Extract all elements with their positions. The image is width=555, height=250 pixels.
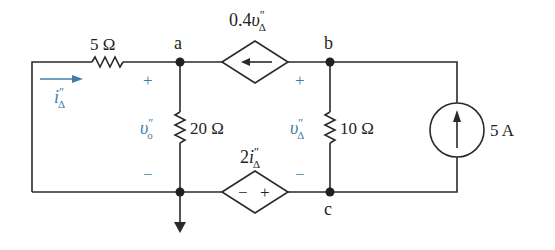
resistor-10-ohm xyxy=(325,112,335,143)
dep-voltage-label: 2i″Δ xyxy=(240,145,260,170)
svg-text:2i″Δ: 2i″Δ xyxy=(240,145,260,170)
i-delta-label: i″Δ xyxy=(54,85,65,110)
svg-text:i″Δ: i″Δ xyxy=(54,85,65,110)
node-a-label: a xyxy=(174,33,182,53)
depvoltage-minus: − xyxy=(238,183,248,202)
v-o-plus: + xyxy=(143,71,153,90)
dependent-voltage-source xyxy=(222,171,288,213)
arrow-up-icon xyxy=(453,110,461,122)
wire-b-to-right xyxy=(330,62,457,103)
svg-text:0.4υ″Δ: 0.4υ″Δ xyxy=(229,8,266,33)
node-c-dot xyxy=(326,188,335,197)
circuit-diagram: − + 5 Ω a b c 20 Ω 10 Ω 5 A 0.4υ″Δ 2i″Δ … xyxy=(0,0,555,250)
v-delta-label: υ″Δ xyxy=(290,116,304,141)
wire-isrc-to-c xyxy=(330,157,457,192)
r10-label: 10 Ω xyxy=(340,119,374,138)
v-o-minus: − xyxy=(143,165,153,184)
svg-text:υ″o: υ″o xyxy=(140,116,153,141)
v-delta-minus: − xyxy=(295,165,305,184)
v-delta-plus: + xyxy=(295,71,305,90)
depvoltage-plus: + xyxy=(260,183,270,202)
node-bottom-dot xyxy=(176,188,185,197)
resistor-20-ohm xyxy=(175,112,185,143)
node-a-dot xyxy=(176,58,185,67)
v-o-label: υ″o xyxy=(140,116,153,141)
r5-label: 5 Ω xyxy=(90,35,115,54)
node-c-label: c xyxy=(324,199,332,219)
node-b-label: b xyxy=(324,33,333,53)
node-b-dot xyxy=(326,58,335,67)
arrow-right-icon xyxy=(72,75,83,83)
ground-arrow-icon xyxy=(174,222,186,233)
svg-text:υ″Δ: υ″Δ xyxy=(290,116,304,141)
resistor-5-ohm xyxy=(92,57,123,67)
arrow-left-icon xyxy=(241,58,250,66)
isrc-label: 5 A xyxy=(490,121,515,140)
dep-current-label: 0.4υ″Δ xyxy=(229,8,266,33)
wire-left-top xyxy=(32,62,92,192)
r20-label: 20 Ω xyxy=(190,119,224,138)
